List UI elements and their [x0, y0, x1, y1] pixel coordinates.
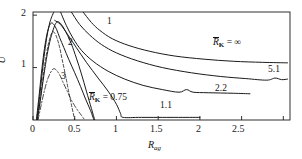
x-tick-label-2: 2 — [196, 124, 201, 134]
curve-label-1: 1 — [107, 17, 112, 27]
y-axis-title-symbol: U — [0, 56, 7, 63]
annotation-2-2: 2.2 — [215, 84, 227, 94]
y-tick-label-1: 1 — [21, 59, 26, 69]
x-tick-label-0-5: 0.5 — [68, 124, 81, 134]
axis-ticks — [33, 15, 283, 120]
x-axis-title: Rag — [148, 140, 161, 152]
x-tick-label-1-5: 1.5 — [150, 124, 163, 134]
annotation-rk-infinity: RK = ∞ — [213, 37, 241, 49]
curve-label-3: 3 — [61, 72, 66, 82]
x-tick-label-0: 0 — [30, 124, 35, 134]
y-axis-title-text: U — [0, 56, 7, 63]
annotation-5-1: 5.1 — [268, 65, 280, 75]
rk-075-value: = 0.75 — [100, 92, 127, 102]
curve-5.1 — [71, 12, 287, 80]
chart-plot-area — [0, 0, 302, 159]
y-axis-title: U — [1, 50, 23, 72]
x-tick-label-1: 1 — [113, 124, 118, 134]
figure-container: U 2 1 0 0.5 1 1.5 2 2.5 Rag 1 2 3 RK = ∞… — [0, 0, 302, 159]
y-tick-label-2: 2 — [21, 8, 26, 18]
annotation-1-1: 1.1 — [160, 101, 172, 111]
x-axis-title-subscript: ag — [154, 144, 161, 152]
curve-label-2: 2 — [68, 38, 73, 48]
rk-infinity-symbol: R — [213, 37, 219, 48]
curve-1 — [83, 12, 287, 63]
rk-075-symbol: R — [89, 92, 95, 103]
rk-infinity-value: = ∞ — [224, 37, 241, 47]
annotation-rk-075: RK = 0.75 — [89, 92, 127, 104]
x-tick-label-2-5: 2.5 — [232, 124, 245, 134]
curve-1.1 — [55, 20, 200, 117]
